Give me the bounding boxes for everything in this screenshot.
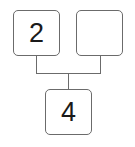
connector-right xyxy=(100,56,101,73)
top-left-value: 2 xyxy=(29,18,44,49)
connector-left xyxy=(36,56,37,73)
bottom-box: 4 xyxy=(45,89,92,135)
top-right-box[interactable] xyxy=(76,10,123,56)
top-left-box: 2 xyxy=(13,10,60,56)
connector-down xyxy=(68,73,69,89)
bottom-value: 4 xyxy=(61,97,76,128)
